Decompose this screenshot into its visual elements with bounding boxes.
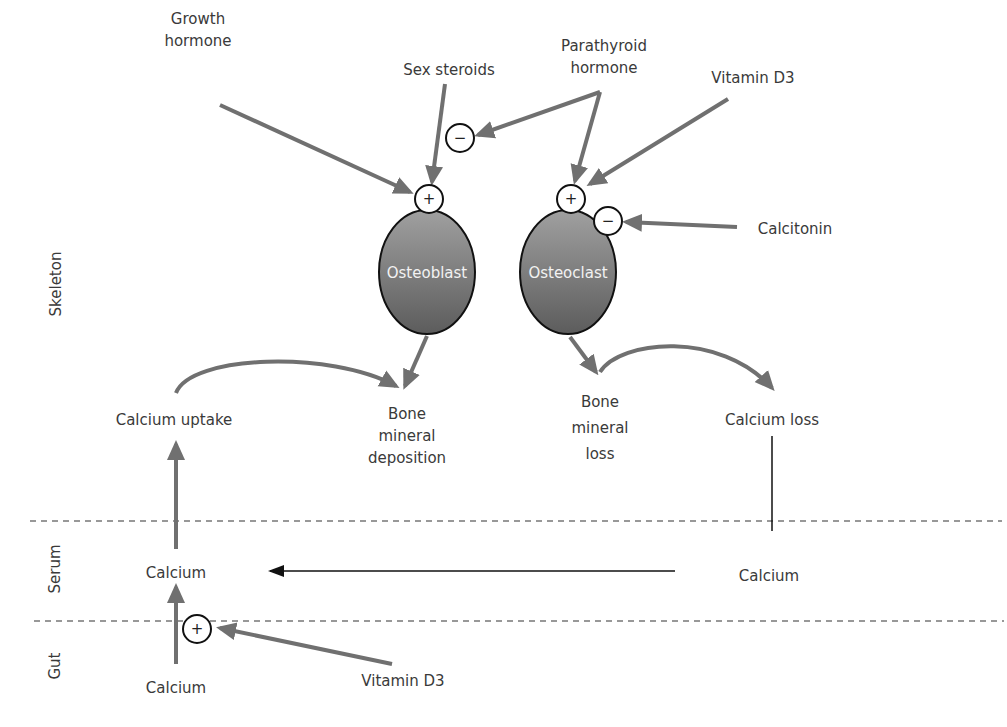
label-calcium-uptake: Calcium uptake — [104, 409, 244, 431]
label-serum-calcium-left: Calcium — [133, 562, 219, 584]
label-vitamin-d3-top: Vitamin D3 — [698, 67, 808, 89]
arrow-sex-steroids — [432, 84, 445, 182]
label-osteoblast: Osteoblast — [377, 262, 477, 284]
label-bone-mineral-loss: Bone mineral loss — [565, 389, 635, 467]
arrow-vitd3-osteoclast — [590, 99, 728, 184]
label-growth-hormone: Growth hormone — [158, 8, 238, 52]
label-parathyroid-hormone: Parathyroid hormone — [549, 35, 659, 79]
arrow-osteoclast-loss — [570, 337, 596, 372]
region-label-gut: Gut — [46, 641, 64, 691]
label-bone-mineral-deposition: Bone mineral deposition — [352, 403, 462, 469]
minus-sign-calcitonin: − — [593, 206, 623, 236]
plus-sign-osteoclast: + — [556, 184, 586, 214]
label-sex-steroids: Sex steroids — [394, 59, 504, 81]
label-calcium-loss: Calcium loss — [707, 409, 837, 431]
arrow-pth-osteoclast — [575, 92, 600, 181]
region-label-skeleton: Skeleton — [47, 244, 65, 324]
diagram-canvas — [0, 0, 1007, 727]
label-osteoclast: Osteoclast — [518, 262, 618, 284]
label-vitamin-d3-gut: Vitamin D3 — [348, 670, 458, 692]
label-serum-calcium-right: Calcium — [726, 565, 812, 587]
region-label-serum: Serum — [46, 539, 64, 599]
arrow-vitd3-gut — [220, 628, 392, 664]
plus-sign-gut-absorption: + — [182, 614, 212, 644]
arrow-pth-inhibit — [478, 92, 600, 135]
arrow-uptake-to-deposition — [176, 362, 396, 393]
arrow-growth-hormone — [220, 105, 410, 192]
minus-sign-pth-inhibit: − — [445, 123, 475, 153]
arrow-loss-to-calcium-loss — [600, 346, 772, 388]
arrow-calcitonin — [626, 222, 737, 227]
plus-sign-osteoblast: + — [414, 184, 444, 214]
arrow-osteoblast-deposition — [405, 336, 427, 386]
label-gut-calcium: Calcium — [133, 677, 219, 699]
label-calcitonin: Calcitonin — [745, 218, 845, 240]
